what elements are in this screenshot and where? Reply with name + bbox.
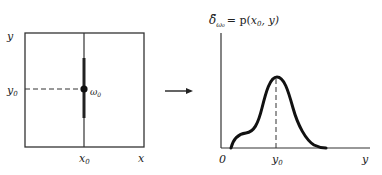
origin-label: 0 [219,153,226,166]
right-panel: δ̃ω₀= p(x0, y) 0 y0 y [209,13,370,167]
point-omega0 [80,85,87,92]
omega0-label: ω0 [90,87,101,98]
right-y0-label: y0 [271,153,283,167]
left-panel: y y0 ω0 x0 x [6,30,145,166]
left-y0-label: y0 [6,84,18,98]
diagram-canvas: y y0 ω0 x0 x δ̃ω₀= p(x0, y) 0 y0 y [0,0,382,175]
right-x-axis-label: y [361,153,369,166]
left-y-axis-label: y [6,30,14,43]
right-title: δ̃ω₀= p(x0, y) [209,13,279,29]
left-x-axis-label: x [138,152,145,165]
arrow-icon [165,88,193,94]
left-x0-label: x0 [79,152,90,166]
density-curve [231,77,326,148]
